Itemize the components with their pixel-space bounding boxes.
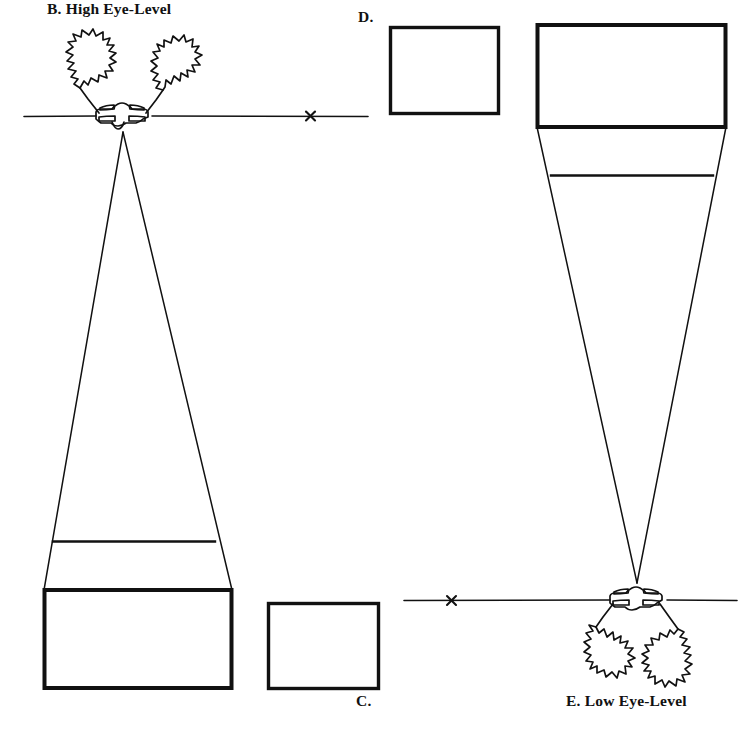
receding-line-e-left	[537, 127, 637, 583]
house-with-trees-icon-e	[584, 587, 692, 687]
rect-c	[269, 604, 379, 689]
rect-d	[391, 28, 499, 114]
panel-b-group	[24, 29, 368, 688]
horizon-line-e-left	[404, 600, 610, 601]
box-b-front-face	[45, 590, 232, 688]
panel-d-group	[391, 28, 499, 114]
perspective-diagram	[0, 0, 754, 732]
horizon-line-b-right	[152, 116, 368, 117]
horizon-line-e-right	[667, 600, 737, 601]
receding-line-b-right	[123, 132, 232, 590]
figure-label-e: E. Low Eye-Level	[566, 692, 687, 710]
figure-page: B. High Eye-Level C. D. E. Low Eye-Level	[0, 0, 754, 732]
receding-line-b-left	[44, 132, 123, 590]
panel-e-group	[404, 25, 737, 687]
panel-c-group	[269, 604, 379, 689]
figure-label-b: B. High Eye-Level	[47, 0, 171, 18]
figure-label-c: C.	[356, 692, 371, 710]
horizon-line-b-left	[24, 116, 96, 117]
figure-label-d: D.	[358, 8, 373, 26]
house-with-trees-icon-b	[66, 29, 202, 129]
receding-line-e-right	[637, 127, 726, 583]
box-e-front-face	[538, 25, 726, 127]
